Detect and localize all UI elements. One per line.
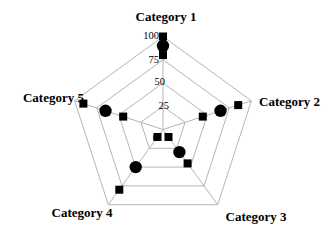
squares-high-marker-cat2: [234, 101, 242, 109]
radar-chart: 100 75 50 25 0 Category 1 Category 2 Cat…: [0, 0, 328, 237]
dots-marker-cat3: [173, 146, 185, 158]
squares-high-marker-cat1: [159, 33, 167, 41]
category-label-3: Category 3: [225, 210, 286, 223]
dots-marker-cat5: [99, 105, 111, 117]
squares-low-marker-cat5: [119, 113, 127, 121]
dots-marker-cat2: [214, 105, 226, 117]
dots-marker-cat1: [157, 40, 169, 52]
category-label-5: Category 5: [23, 91, 84, 104]
squares-low-marker-cat1: [159, 51, 167, 59]
squares-high-marker-cat3: [184, 159, 192, 167]
dots-marker-cat4: [130, 161, 142, 173]
squares-low-marker-cat2: [199, 113, 207, 121]
squares-high-marker-cat4: [115, 186, 123, 194]
squares-low-marker-cat3: [165, 133, 173, 141]
squares-low-marker-cat4: [154, 133, 162, 141]
category-label-4: Category 4: [51, 206, 112, 219]
category-label-2: Category 2: [259, 95, 320, 108]
category-label-1: Category 1: [135, 10, 196, 23]
radar-markers: [0, 0, 328, 237]
